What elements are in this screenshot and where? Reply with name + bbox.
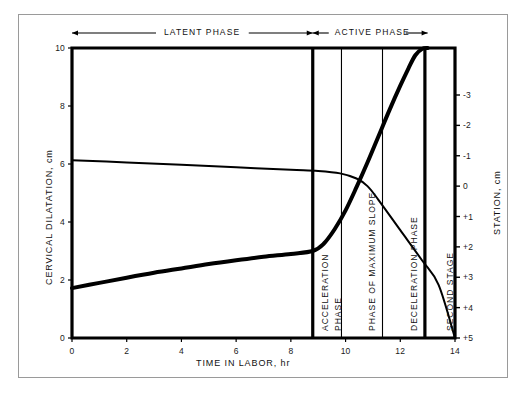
- y2-tick-label-2: -1: [463, 151, 471, 161]
- y-tick-label-3: 6: [60, 159, 65, 169]
- x-tick-label-5: 10: [341, 346, 351, 356]
- x-tick-label-7: 14: [450, 346, 460, 356]
- latent-arrow-seg1-left-arrowhead: [72, 30, 78, 35]
- series-line-station: [72, 160, 455, 338]
- band-label-second-stage: SECOND STAGE: [445, 252, 455, 331]
- chart-plot-area: [0, 0, 522, 394]
- phase-header-active-phase: ACTIVE PHASE: [335, 27, 410, 37]
- y-tick-label-1: 2: [60, 275, 65, 285]
- band-label-acceleration-phase-line-0: ACCELERATION: [320, 254, 330, 332]
- y-tick-label-2: 4: [60, 217, 65, 227]
- band-label-acceleration-phase-line-1: PHASE: [333, 297, 343, 331]
- y2-tick-label-0: -3: [463, 90, 471, 100]
- x-tick-label-0: 0: [70, 346, 75, 356]
- x-tick-label-2: 4: [179, 346, 184, 356]
- y2-tick-label-4: +1: [463, 212, 473, 222]
- x-tick-label-1: 2: [124, 346, 129, 356]
- friedman-labor-curve-figure: LATENT PHASE ACTIVE PHASE PHASE OF MAXIM…: [0, 0, 522, 394]
- x-tick-label-3: 6: [234, 346, 239, 356]
- y2-tick-label-6: +3: [463, 272, 473, 282]
- x-axis-title: TIME IN LABOR, hr: [196, 358, 290, 368]
- y2-tick-label-3: 0: [463, 181, 468, 191]
- phase-header-latent-phase: LATENT PHASE: [164, 27, 240, 37]
- y-tick-label-4: 8: [60, 101, 65, 111]
- x-tick-label-6: 12: [395, 346, 405, 356]
- y-tick-label-5: 10: [55, 43, 65, 53]
- y2-tick-label-1: -2: [463, 120, 471, 130]
- y-tick-label-0: 0: [60, 333, 65, 343]
- y-axis-title: CERVICAL DILATATION, cm: [44, 149, 54, 285]
- band-label-phase-of-maximum-slope: PHASE OF MAXIMUM SLOPE: [367, 192, 377, 331]
- y2-tick-label-7: +4: [463, 303, 473, 313]
- latent-arrow-seg2-right-arrowhead: [307, 30, 313, 35]
- active-arrow-seg1-left-arrowhead: [313, 30, 319, 35]
- band-label-deceleration-phase: DECELERATION PHASE: [409, 216, 419, 331]
- x-tick-label-4: 8: [288, 346, 293, 356]
- y2-tick-label-5: +2: [463, 242, 473, 252]
- y2-axis-title: STATION, cm: [492, 170, 502, 235]
- y2-tick-label-8: +5: [463, 333, 473, 343]
- active-arrow-seg2-right-arrowhead: [422, 30, 428, 35]
